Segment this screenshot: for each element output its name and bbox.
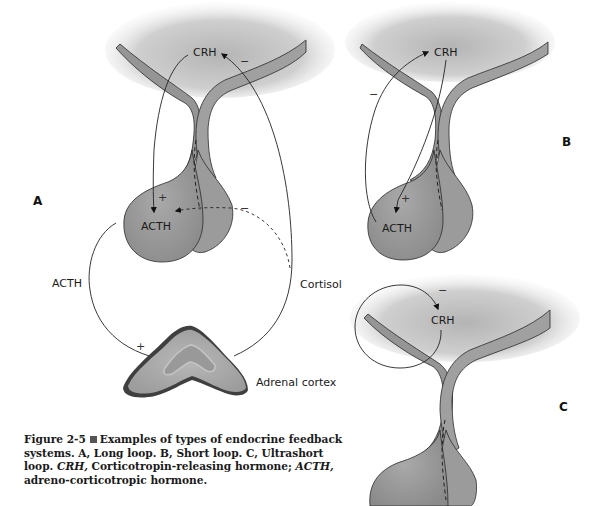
cortisol-release-line-a (234, 260, 292, 356)
anterior-pituitary-a (124, 150, 203, 262)
figure-number: Figure 2-5 (24, 433, 86, 445)
minus-sign-cortisol-crh-a: − (240, 55, 249, 68)
anterior-pituitary-c (370, 430, 448, 506)
endocrine-feedback-diagram: CRH + ACTH − − ACTH + Cortisol Adrenal c… (0, 0, 598, 506)
anterior-pituitary-b (368, 150, 443, 260)
hypothalamus-b (345, 2, 555, 82)
crh-label-c: CRH (431, 314, 455, 327)
plus-sign-crh-acth-a: + (158, 191, 167, 204)
panel-b: CRH + − ACTH B (345, 2, 571, 260)
minus-sign-acth-crh-b: − (369, 88, 378, 101)
caption-text-2: Corticotropin-releasing hormone; (88, 460, 296, 472)
acth-pituitary-label-a: ACTH (141, 220, 171, 233)
panel-letter-b: B (562, 135, 571, 149)
caption-text-3: adreno-corticotropic hormone. (24, 474, 207, 486)
minus-sign-cortisol-acth-a: − (240, 202, 249, 215)
minus-sign-crh-loop-c: − (438, 284, 447, 297)
caption-abbr-acth: ACTH, (296, 460, 334, 472)
caption-square-bullet-icon (90, 436, 97, 443)
adrenal-cortex-a (123, 326, 248, 398)
acth-pituitary-label-b: ACTH (382, 222, 412, 235)
cortisol-label-a: Cortisol (300, 278, 342, 291)
adrenal-cortex-label-a: Adrenal cortex (256, 376, 337, 389)
figure-caption: Figure 2-5Examples of types of endocrine… (24, 433, 344, 487)
plus-sign-crh-acth-b: + (401, 192, 410, 205)
crh-label-b: CRH (434, 46, 458, 59)
panel-letter-c: C (559, 400, 568, 414)
acth-circulating-label-a: ACTH (52, 277, 82, 290)
panel-letter-a: A (33, 194, 43, 208)
plus-sign-acth-adrenal-a: + (136, 340, 145, 353)
caption-abbr-crh: CRH, (57, 460, 88, 472)
panel-c: − CRH C (350, 274, 580, 506)
crh-label-a: CRH (193, 46, 217, 59)
panel-a: CRH + ACTH − − ACTH + Cortisol Adrenal c… (33, 2, 342, 397)
